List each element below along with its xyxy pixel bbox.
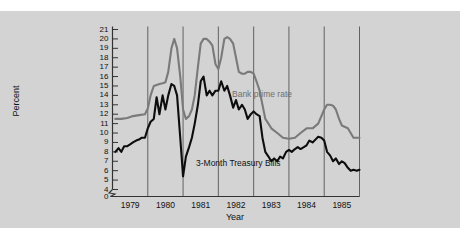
y-tick-label: 18 xyxy=(83,53,109,62)
y-tick-label: 7 xyxy=(83,156,109,165)
y-tick-label: 12 xyxy=(83,109,109,118)
y-tick-label: 5 xyxy=(83,175,109,184)
y-tick-label: 6 xyxy=(83,166,109,175)
y-tick-label: 11 xyxy=(83,119,109,128)
x-tick-label: 1981 xyxy=(181,200,221,210)
data-series xyxy=(115,37,359,176)
y-tick-label: 4 xyxy=(83,185,109,194)
y-tick-label: 14 xyxy=(83,90,109,99)
series-label-treasury-bills: 3-Month Treasury Bills xyxy=(196,158,281,168)
x-tick-label: 1983 xyxy=(251,200,291,210)
y-tick-label: 13 xyxy=(83,100,109,109)
y-tick-label: 16 xyxy=(83,72,109,81)
y-tick-label: 9 xyxy=(83,137,109,146)
chart-figure: 0456789101112131415161718192021 19791980… xyxy=(0,0,460,239)
x-tick-label: 1984 xyxy=(287,200,327,210)
series-label-bank-prime-rate: Bank prime rate xyxy=(232,89,292,99)
y-tick-label: 21 xyxy=(83,25,109,34)
y-tick-label: 17 xyxy=(83,62,109,71)
y-tick-label: 8 xyxy=(83,147,109,156)
x-tick-label: 1985 xyxy=(322,200,362,210)
x-tick-label: 1982 xyxy=(216,200,256,210)
x-tick-label: 1979 xyxy=(110,200,150,210)
y-tick-label: 10 xyxy=(83,128,109,137)
x-tick-label: 1980 xyxy=(145,200,185,210)
y-tick-label: 15 xyxy=(83,81,109,90)
y-axis-ticks xyxy=(113,30,119,190)
y-axis-title: Percent xyxy=(11,71,21,131)
y-tick-label: 19 xyxy=(83,43,109,52)
x-axis-title: Year xyxy=(205,212,265,222)
y-tick-label: 20 xyxy=(83,34,109,43)
